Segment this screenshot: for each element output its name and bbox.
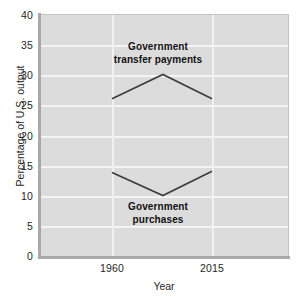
- x-tick-1960: 1960: [82, 262, 142, 274]
- annotation-purchases-line-2: purchases: [98, 213, 218, 226]
- gridline-y-10: [40, 196, 288, 198]
- annotation-government-purchases: Government purchases: [98, 200, 218, 226]
- x-axis-title: Year: [40, 280, 288, 292]
- gridline-y-15: [40, 166, 288, 168]
- gridline-y-5: [40, 226, 288, 228]
- chart-figure: 40 35 30 25 20 15 10 5 0 1960 2015 Year …: [0, 0, 296, 299]
- y-axis-spine: [38, 13, 41, 258]
- gridline-y-30: [40, 75, 288, 77]
- x-tick-2015: 2015: [182, 262, 242, 274]
- annotation-government-transfer-payments: Government transfer payments: [88, 40, 228, 66]
- x-axis-spine: [38, 256, 290, 259]
- annotation-purchases-line-1: Government: [98, 200, 218, 213]
- y-tick-0: 0: [0, 250, 33, 262]
- gridline-y-20: [40, 136, 288, 138]
- y-tick-40: 40: [0, 9, 33, 21]
- annotation-transfer-line-2: transfer payments: [88, 53, 228, 66]
- gridline-y-25: [40, 105, 288, 107]
- annotation-transfer-line-1: Government: [88, 40, 228, 53]
- y-axis-title: Percentage of U.S. output: [14, 26, 26, 226]
